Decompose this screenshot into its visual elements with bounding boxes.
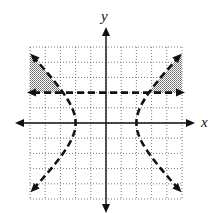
y-axis-arrow-icon xyxy=(102,204,110,213)
x-axis-arrow-icon xyxy=(15,119,24,127)
x-axis-arrow-icon xyxy=(186,119,195,127)
graph-canvas xyxy=(0,0,217,213)
x-axis-label: x xyxy=(201,114,208,131)
y-axis-arrow-icon xyxy=(102,27,110,36)
axes xyxy=(15,27,195,213)
y-axis-label: y xyxy=(101,8,108,25)
